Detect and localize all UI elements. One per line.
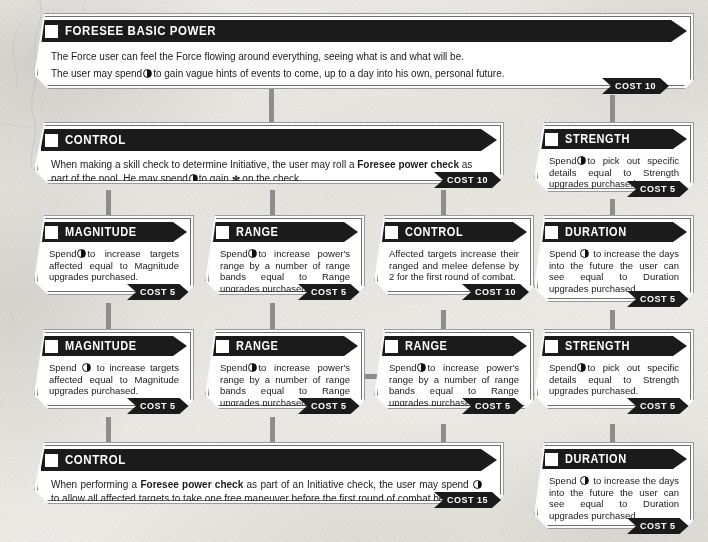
card-header: RANGE [212,336,358,356]
cost-badge-magnitude-row4: COST 5 [127,398,189,414]
card-title: FORESEE BASIC POWER [65,24,216,37]
card-duration-row3[interactable]: DURATION Spend to increase the days into… [534,215,694,302]
card-body: Spend to increase targets affected equal… [41,356,187,401]
empty-checkbox-icon[interactable] [545,133,558,146]
connector-vertical [106,417,111,443]
force-die-icon [189,174,198,183]
card-foresee-basic-power[interactable]: FORESEE BASIC POWER The Force user can f… [34,13,694,89]
card-header: CONTROL [381,222,527,242]
cost-badge-control-defense: COST 10 [462,284,529,300]
force-die-icon [580,476,589,485]
empty-checkbox-icon[interactable] [45,134,58,147]
card-header: DURATION [541,449,687,469]
cost-badge-magnitude-row3: COST 5 [127,284,189,300]
force-die-icon [473,480,482,489]
cost-badge-range-row4-b: COST 5 [462,398,524,414]
card-body: Spendto increase targets affected equal … [41,242,187,287]
cost-badge-range-row3-a: COST 5 [298,284,360,300]
empty-checkbox-icon[interactable] [216,340,229,353]
force-die-icon [248,363,257,372]
card-magnitude-row4[interactable]: MAGNITUDE Spend to increase targets affe… [34,329,194,409]
card-title: CONTROL [405,225,463,238]
card-range-row4-a[interactable]: RANGE Spendto increase power's range by … [205,329,365,409]
empty-checkbox-icon[interactable] [545,226,558,239]
card-header: STRENGTH [541,336,687,356]
card-header: FORESEE BASIC POWER [41,20,687,42]
connector-vertical [441,424,446,443]
card-header: CONTROL [41,449,497,471]
card-title: RANGE [236,225,278,238]
card-range-row3-a[interactable]: RANGE Spendto increase power's range by … [205,215,365,295]
cost-badge-strength-row2: COST 5 [627,181,689,197]
force-die-icon [248,249,257,258]
card-body-line: The Force user can feel the Force flowin… [51,48,673,65]
force-die-icon [417,363,426,372]
card-body: When performing a Foresee power check as… [41,471,497,511]
card-body-emphasis: Foresee power check [357,159,459,170]
empty-checkbox-icon[interactable] [45,226,58,239]
card-control-maneuver[interactable]: CONTROL When performing a Foresee power … [34,442,504,504]
card-body: The Force user can feel the Force flowin… [41,42,687,88]
force-die-icon [580,249,589,258]
force-die-icon [577,156,586,165]
card-title: RANGE [236,339,278,352]
talent-tree: FORESEE BASIC POWER The Force user can f… [0,0,708,542]
connector-vertical [270,190,275,216]
connector-vertical [270,417,275,443]
card-header: RANGE [212,222,358,242]
connector-vertical [610,199,615,216]
card-magnitude-row3[interactable]: MAGNITUDE Spendto increase targets affec… [34,215,194,295]
card-header: MAGNITUDE [41,336,187,356]
connector-vertical [106,303,111,330]
card-title: RANGE [405,339,447,352]
empty-checkbox-icon[interactable] [216,226,229,239]
card-title: MAGNITUDE [65,225,137,238]
connector-vertical [610,95,615,123]
card-body: Spend to increase the days into the futu… [541,469,687,525]
card-title: STRENGTH [565,132,630,145]
connector-vertical [269,85,274,123]
card-body: Affected targets increase their ranged a… [381,242,527,287]
cost-badge-duration-row3: COST 5 [627,291,689,307]
card-header: STRENGTH [541,129,687,149]
card-range-row4-b[interactable]: RANGE Spendto increase power's range by … [374,329,534,409]
connector-vertical [270,303,275,330]
card-body-emphasis: Foresee power check [140,479,243,490]
card-control-initiative[interactable]: CONTROL When making a skill check to det… [34,122,504,184]
cost-badge-strength-row4: COST 5 [627,398,689,414]
card-strength-row4[interactable]: STRENGTH Spendto pick out specific detai… [534,329,694,409]
card-header: RANGE [381,336,527,356]
card-body: Spendto pick out specific details equal … [541,356,687,401]
connector-vertical [441,310,446,330]
empty-checkbox-icon[interactable] [545,340,558,353]
card-title: CONTROL [65,133,126,146]
cost-badge-range-row4-a: COST 5 [298,398,360,414]
card-body: Spend to increase the days into the futu… [541,242,687,298]
force-die-icon [77,249,86,258]
cost-badge-control-initiative: COST 10 [434,172,501,188]
force-die-icon [82,363,91,372]
card-title: DURATION [565,225,627,238]
cost-badge-control-maneuver: COST 15 [434,492,501,508]
connector-vertical [610,424,615,443]
connector-vertical [106,190,111,216]
card-body-line: The user may spendto gain vague hints of… [51,65,673,82]
connector-vertical [610,310,615,330]
force-die-icon [577,363,586,372]
card-title: DURATION [565,452,627,465]
empty-checkbox-icon[interactable] [45,340,58,353]
cost-badge-duration-row5: COST 5 [627,518,689,534]
card-control-defense[interactable]: CONTROL Affected targets increase their … [374,215,534,295]
triumph-icon: ✼ [232,174,240,185]
card-duration-row5[interactable]: DURATION Spend to increase the days into… [534,442,694,529]
card-title: STRENGTH [565,339,630,352]
card-title: CONTROL [65,453,126,466]
empty-checkbox-icon[interactable] [45,454,58,467]
card-header: DURATION [541,222,687,242]
empty-checkbox-icon[interactable] [45,25,58,38]
empty-checkbox-icon[interactable] [385,340,398,353]
empty-checkbox-icon[interactable] [385,226,398,239]
empty-checkbox-icon[interactable] [545,453,558,466]
cost-badge-foresee-basic-power: COST 10 [602,78,669,94]
card-header: CONTROL [41,129,497,151]
